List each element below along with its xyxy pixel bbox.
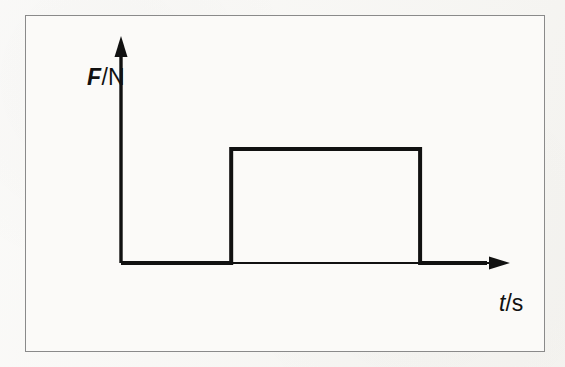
figure-border-frame: F/N t/s xyxy=(25,15,545,352)
plot-area: F/N t/s xyxy=(26,16,544,351)
pulse-curve xyxy=(121,149,487,263)
x-axis-unit: s xyxy=(512,290,524,316)
up-arrow-icon xyxy=(115,36,128,57)
y-axis-label: F/N xyxy=(87,66,125,89)
right-arrow-icon xyxy=(489,257,510,270)
y-axis-unit: N xyxy=(108,64,125,90)
x-axis-label: t/s xyxy=(499,292,523,315)
series-force-pulse xyxy=(121,149,487,263)
figure-page: F/N t/s xyxy=(0,0,565,367)
y-axis-symbol: F xyxy=(87,64,102,90)
